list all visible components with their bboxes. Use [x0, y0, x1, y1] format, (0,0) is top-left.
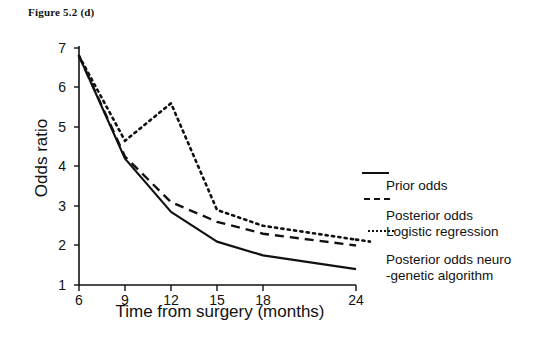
legend-swatch-posterior-logistic — [364, 198, 390, 200]
x-axis-title: Time from surgery (months) — [80, 302, 360, 322]
y-axis-title: Odds ratio — [32, 98, 52, 218]
y-tick-label-7: 7 — [44, 41, 66, 55]
series-line-prior-odds — [79, 56, 356, 269]
x-axis-ticks — [79, 285, 356, 291]
legend-label-posterior-neuro-genetic: Posterior odds neuro -genetic algorithm — [386, 252, 511, 285]
legend-label-prior-odds: Prior odds — [386, 178, 448, 194]
chart-plot-area: 7 6 5 4 3 2 1 6 9 12 15 18 24 Odds ratio… — [0, 0, 553, 344]
y-tick-label-6: 6 — [44, 80, 66, 94]
y-tick-label-2: 2 — [44, 238, 66, 252]
series-line-posterior-neuro-genetic-tail — [356, 240, 370, 242]
legend-label-posterior-logistic: Posterior odds Logistic regression — [386, 208, 499, 241]
legend-swatch-prior-odds — [362, 172, 389, 174]
y-tick-label-1: 1 — [44, 278, 66, 292]
